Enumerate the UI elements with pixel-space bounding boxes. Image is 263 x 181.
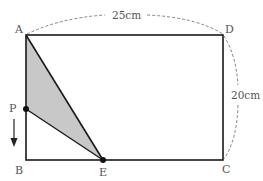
dimension-right-label: 20cm <box>231 89 260 101</box>
point-e <box>100 157 106 163</box>
dimension-top-label: 25cm <box>112 9 141 21</box>
label-e: E <box>99 166 107 179</box>
label-p: P <box>9 102 17 115</box>
arrow-down-icon <box>11 138 18 147</box>
label-c: C <box>222 163 230 176</box>
geometry-diagram: A D P B E C 25cm 20cm <box>0 0 263 181</box>
label-d: D <box>225 23 234 36</box>
dimension-arc-top-left <box>27 15 105 34</box>
label-b: B <box>15 164 23 177</box>
dimension-arc-right-top <box>224 36 238 85</box>
dimension-arc-right-bottom <box>224 105 238 159</box>
point-p <box>23 106 29 112</box>
label-a: A <box>14 23 24 36</box>
dimension-arc-top-right <box>147 15 223 34</box>
